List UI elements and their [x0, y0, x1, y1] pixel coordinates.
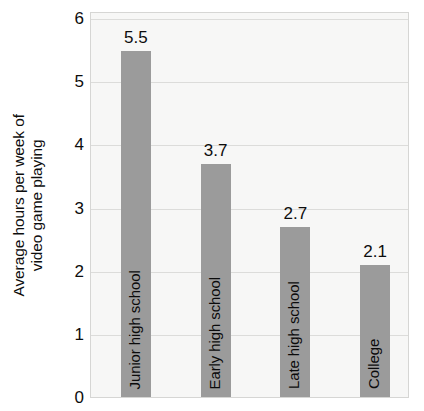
y-axis-tick-label: 5	[75, 73, 84, 90]
y-axis-title-line-2: video game playing	[28, 114, 46, 296]
bar-value-label: 2.1	[363, 243, 387, 260]
plot-area: Junior high school5.5Early high school3.…	[90, 12, 409, 398]
gridline	[91, 19, 408, 20]
bar[interactable]	[121, 51, 151, 398]
bar[interactable]	[360, 265, 390, 398]
y-axis-tick-label: 2	[75, 262, 84, 279]
bar-chart: Average hours per week of video game pla…	[0, 0, 424, 411]
bar[interactable]	[201, 164, 231, 398]
y-axis-tick-label: 1	[75, 325, 84, 342]
y-axis-tick-label: 0	[75, 389, 84, 406]
y-axis-title-line-1: Average hours per week of	[10, 114, 28, 296]
bar-value-label: 2.7	[284, 205, 308, 222]
y-axis-title: Average hours per week of video game pla…	[0, 0, 56, 411]
y-axis-tick-label: 4	[75, 136, 84, 153]
bar-value-label: 3.7	[204, 142, 228, 159]
y-axis-tick-label: 6	[75, 10, 84, 27]
y-axis-tick-labels: 0123456	[56, 0, 88, 411]
bar-value-label: 5.5	[124, 29, 148, 46]
bar[interactable]	[280, 227, 310, 398]
y-axis-tick-label: 3	[75, 199, 84, 216]
